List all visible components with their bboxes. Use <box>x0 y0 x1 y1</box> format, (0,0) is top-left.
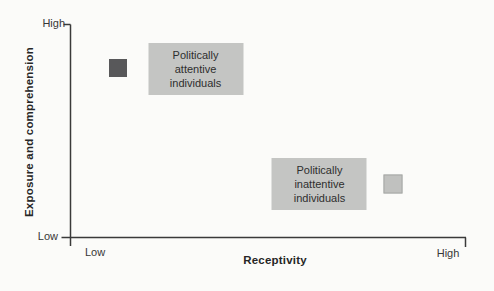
label-box-politically-attentive: Politically attentive individuals <box>148 43 243 95</box>
label-text-politically-inattentive: Politically inattentive individuals <box>283 163 355 205</box>
chart-figure: Exposure and comprehension Receptivity H… <box>0 0 494 291</box>
y-axis-title: Exposure and comprehension <box>23 47 36 217</box>
y-tick-low-label: Low <box>18 230 58 243</box>
marker-politically-attentive <box>109 59 127 77</box>
label-box-politically-inattentive: Politically inattentive individuals <box>272 158 367 210</box>
marker-politically-inattentive <box>383 175 402 194</box>
y-tick-high-label: High <box>22 17 65 30</box>
x-tick-high-label: High <box>428 247 468 260</box>
x-axis-title: Receptivity <box>195 254 355 267</box>
x-tick-low-label: Low <box>75 246 115 259</box>
label-text-politically-attentive: Politically attentive individuals <box>160 48 232 90</box>
